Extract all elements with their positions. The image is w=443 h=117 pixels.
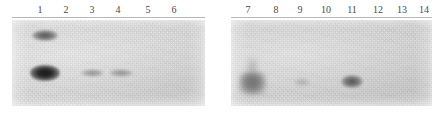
lane-label-12: 12 xyxy=(373,4,383,15)
lane-label-13: 13 xyxy=(397,4,407,15)
band-lane-11 xyxy=(341,75,363,88)
panel-vignette-right xyxy=(231,20,432,106)
lane-label-9: 9 xyxy=(298,4,303,15)
panel-vignette-left xyxy=(12,20,205,106)
band-lane-9 xyxy=(294,78,310,86)
lane-label-3: 3 xyxy=(90,4,95,15)
lane-label-rule-right xyxy=(231,17,432,18)
band-lane-3 xyxy=(81,69,104,77)
band-lane-7-main xyxy=(239,72,266,95)
lane-label-10: 10 xyxy=(321,4,331,15)
lane-label-6: 6 xyxy=(172,4,177,15)
lane-label-2: 2 xyxy=(64,4,69,15)
lane-label-1: 1 xyxy=(38,4,43,15)
gel-blot-figure: 1 2 3 4 5 6 7 8 9 10 11 12 13 14 xyxy=(0,0,443,117)
band-lane-1-main xyxy=(30,65,60,81)
lane-label-7: 7 xyxy=(246,4,251,15)
gel-panel-lanes-7-14 xyxy=(231,20,432,106)
band-lane-4 xyxy=(109,69,133,77)
lane-label-rule-left xyxy=(12,17,205,18)
gel-panel-lanes-1-6 xyxy=(12,20,205,106)
lane-label-5: 5 xyxy=(146,4,151,15)
lane-label-11: 11 xyxy=(347,4,357,15)
band-lane-7-smear xyxy=(247,58,258,76)
band-lane-1-upper xyxy=(32,30,58,41)
lane-label-4: 4 xyxy=(116,4,121,15)
lane-label-14: 14 xyxy=(419,4,429,15)
lane-label-8: 8 xyxy=(274,4,279,15)
